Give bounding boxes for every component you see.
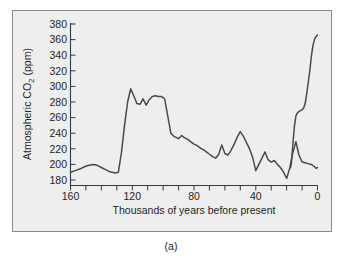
y-axis-title-prefix: Atmospheric CO — [21, 83, 33, 160]
y-tick-label: 320 — [49, 65, 67, 77]
y-tick-label: 200 — [49, 158, 67, 170]
x-tick-label: 120 — [124, 190, 142, 202]
y-tick-labels: 380 360 340 320 300 280 260 240 220 200 … — [49, 18, 67, 186]
x-tick-label: 40 — [250, 190, 262, 202]
y-tick-label: 380 — [49, 18, 67, 30]
y-tick-label: 220 — [49, 143, 67, 155]
y-axis-group: 380 360 340 320 300 280 260 240 220 200 … — [21, 18, 76, 186]
x-tick-label: 0 — [315, 190, 321, 202]
y-tick-label: 340 — [49, 49, 67, 61]
y-tick-label: 240 — [49, 127, 67, 139]
y-axis-ticks — [71, 24, 76, 180]
co2-data-line — [71, 89, 318, 179]
figure-caption: (a) — [0, 240, 342, 252]
x-axis-title: Thousands of years before present — [113, 204, 276, 216]
y-axis-title: Atmospheric CO2 (ppm) — [21, 48, 36, 160]
y-tick-label: 360 — [49, 33, 67, 45]
figure-root: 380 360 340 320 300 280 260 240 220 200 … — [0, 0, 342, 276]
x-axis-group: 160 120 80 40 0 Thousands of years befor… — [62, 186, 321, 217]
co2-line-chart: 380 360 340 320 300 280 260 240 220 200 … — [0, 0, 342, 276]
x-tick-label: 80 — [188, 190, 200, 202]
y-tick-label: 300 — [49, 80, 67, 92]
y-tick-label: 180 — [49, 174, 67, 186]
x-tick-label: 160 — [62, 190, 80, 202]
y-axis-title-suffix: (ppm) — [21, 48, 33, 78]
data-series-group — [71, 35, 318, 179]
y-tick-label: 280 — [49, 96, 67, 108]
y-tick-label: 260 — [49, 111, 67, 123]
x-tick-labels: 160 120 80 40 0 — [62, 190, 321, 202]
